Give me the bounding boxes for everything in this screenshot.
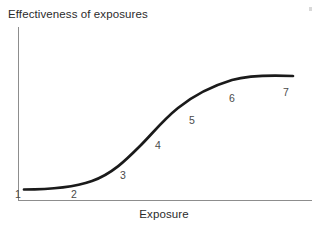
sigmoid-curve — [24, 75, 293, 189]
point-label-4: 4 — [155, 140, 161, 151]
chart-figure: Effectiveness of exposures 1 2 3 4 5 6 7… — [0, 0, 328, 231]
point-label-5: 5 — [189, 115, 195, 126]
point-label-1: 1 — [15, 189, 21, 200]
x-axis-title: Exposure — [0, 208, 328, 221]
plot-area — [0, 0, 328, 231]
point-label-6: 6 — [229, 93, 235, 104]
point-label-3: 3 — [120, 170, 126, 181]
point-label-2: 2 — [71, 189, 77, 200]
point-label-7: 7 — [283, 87, 289, 98]
